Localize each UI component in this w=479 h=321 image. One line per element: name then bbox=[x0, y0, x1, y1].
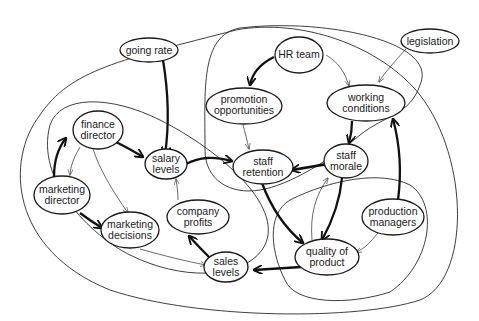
svg-text:levels: levels bbox=[213, 266, 240, 278]
svg-text:going rate: going rate bbox=[126, 44, 173, 56]
edge-hr-team-to-working-conditions bbox=[326, 55, 349, 86]
node-hr-team: HR team bbox=[275, 37, 323, 73]
edge-working-conditions-to-staff-morale bbox=[349, 121, 352, 143]
edge-staff-morale-to-staff-retention bbox=[292, 164, 327, 170]
svg-text:profits: profits bbox=[184, 216, 213, 228]
svg-text:retention: retention bbox=[243, 166, 284, 178]
edge-company-profits-to-salary-levels bbox=[176, 179, 178, 200]
svg-text:opportunities: opportunities bbox=[214, 104, 274, 116]
edge-marketing-director-to-finance-director bbox=[54, 138, 66, 177]
svg-text:product: product bbox=[309, 256, 344, 268]
svg-text:director: director bbox=[80, 129, 116, 141]
svg-text:decisions: decisions bbox=[108, 229, 152, 241]
svg-text:morale: morale bbox=[330, 160, 362, 172]
influence-diagram: going rate HR team legislation promotion… bbox=[0, 0, 479, 321]
edge-finance-director-to-marketing-decisions bbox=[93, 149, 128, 213]
svg-text:legislation: legislation bbox=[407, 35, 454, 47]
svg-text:managers: managers bbox=[370, 216, 417, 228]
svg-text:conditions: conditions bbox=[342, 102, 389, 114]
edge-production-managers-to-working-conditions bbox=[393, 119, 400, 200]
edge-marketing-director-to-marketing-decisions bbox=[80, 213, 102, 228]
edge-production-managers-to-quality bbox=[356, 233, 378, 252]
node-legislation: legislation bbox=[401, 29, 459, 53]
edge-staff-morale-to-quality bbox=[322, 178, 342, 240]
boundary-production bbox=[273, 178, 427, 301]
node-promotion-opportunities: promotion opportunities bbox=[206, 88, 282, 124]
edge-quality-to-sales-levels bbox=[254, 267, 301, 270]
node-production-managers: production managers bbox=[362, 199, 424, 235]
edge-marketing-decisions-to-sales-levels bbox=[140, 249, 206, 265]
node-marketing-decisions: marketing decisions bbox=[101, 212, 159, 248]
node-staff-retention: staff retention bbox=[233, 150, 293, 184]
node-working-conditions: working conditions bbox=[327, 85, 405, 121]
node-salary-levels: salary levels bbox=[145, 149, 187, 179]
node-staff-morale: staff morale bbox=[324, 144, 368, 178]
nodes: going rate HR team legislation promotion… bbox=[34, 29, 459, 282]
node-going-rate: going rate bbox=[120, 38, 178, 62]
edge-legislation-to-working-conditions bbox=[379, 49, 406, 82]
edge-hr-team-to-promotion bbox=[250, 57, 274, 85]
node-finance-director: finance director bbox=[73, 111, 123, 149]
node-quality-of-product: quality of product bbox=[295, 239, 359, 275]
svg-text:HR team: HR team bbox=[278, 48, 320, 60]
node-marketing-director: marketing director bbox=[34, 176, 90, 214]
node-company-profits: company profits bbox=[167, 200, 229, 234]
svg-text:levels: levels bbox=[153, 163, 180, 175]
edge-sales-levels-to-company-profits bbox=[189, 236, 210, 258]
edge-promotion-to-staff-retention bbox=[243, 125, 249, 149]
edge-finance-director-to-marketing-director bbox=[70, 147, 80, 175]
svg-text:director: director bbox=[44, 194, 80, 206]
node-sales-levels: sales levels bbox=[204, 252, 248, 282]
edge-going-rate-to-salary-levels bbox=[163, 60, 168, 155]
